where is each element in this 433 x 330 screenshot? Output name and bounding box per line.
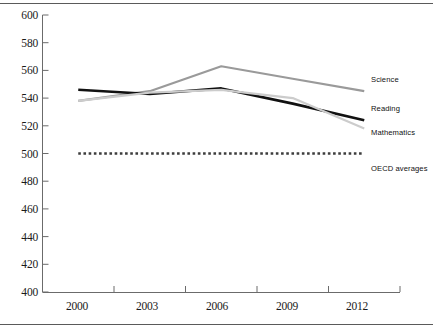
- y-axis-ticks: [43, 15, 49, 292]
- series-label-oecd-averages: OECD averages: [371, 164, 428, 173]
- series-line-mathematics: [78, 90, 364, 129]
- series-label-reading: Reading: [371, 104, 400, 113]
- chart-container: 600 580 560 540 520 500 480 460 440 420 …: [0, 0, 433, 330]
- series-label-mathematics: Mathematics: [371, 128, 415, 137]
- plot-area: [0, 0, 433, 330]
- x-axis-ticks: [43, 286, 401, 292]
- series-line-reading: [78, 88, 364, 120]
- series-lines: [78, 66, 364, 153]
- series-label-science: Science: [371, 75, 399, 84]
